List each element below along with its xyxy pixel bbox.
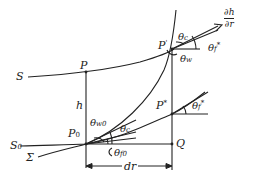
point-label-q: Q [176,138,185,149]
point-label-p-prime: P' [158,40,167,51]
angle-label-theta-w: θw [180,54,192,64]
diagram-canvas: S S0 Σ P P' P0 P* Q h dr θc θf* θw ∂h ∂r… [0,0,254,188]
dimension-label-h: h [76,100,83,111]
curve-label-s0: S0 [10,140,22,151]
curve-s [28,49,174,77]
point-p-star [171,113,174,116]
gradient-label: ∂h ∂r [224,6,234,29]
dr-arrow-right [166,164,172,169]
arc-theta-c-top [176,42,184,44]
angle-label-theta-f-top: θf* [208,42,220,53]
point-p-prime [171,48,174,51]
point-label-p: P [80,60,87,71]
point-label-p0: P0 [68,128,80,139]
angle-label-theta-f-star: θf* [192,100,204,111]
angle-label-theta-f0: θf0 [114,148,127,158]
point-q [171,143,174,146]
arc-theta-f0 [107,139,108,144]
curve-label-sigma: Σ [26,152,34,163]
point-p0 [85,143,88,146]
curve-label-s: S [16,71,24,82]
angle-label-theta-c-bottom: θc [120,124,130,134]
arc-theta-f0-tick [109,148,112,156]
angle-label-theta-w0: θw0 [90,118,106,128]
arc-theta-f-star [183,106,186,114]
dr-arrow-left [86,164,92,169]
angle-label-theta-c-top: θc [178,32,188,42]
point-label-p-star: P* [156,100,167,111]
dimension-label-dr: dr [122,161,138,172]
curve-sigma [38,10,176,157]
